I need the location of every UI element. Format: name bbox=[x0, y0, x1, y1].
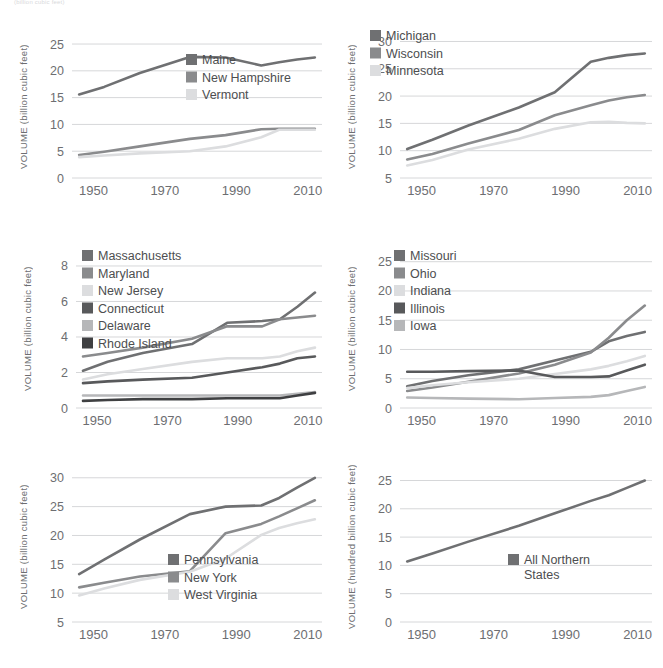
x-tick-label: 1990 bbox=[551, 413, 580, 428]
x-tick-label: 1990 bbox=[551, 183, 580, 198]
legend: MassachusettsMarylandNew JerseyConnectic… bbox=[82, 249, 181, 351]
chart-northern-new-england: 05101520251950197019902010MaineNew Hamps… bbox=[0, 0, 332, 222]
x-tick-label: 1990 bbox=[222, 183, 251, 198]
legend-label: Michigan bbox=[386, 29, 436, 43]
x-tick-label: 2010 bbox=[623, 183, 652, 198]
series-line bbox=[83, 392, 315, 396]
y-tick-label: 30 bbox=[50, 471, 64, 485]
legend-label: Illinois bbox=[410, 302, 445, 316]
legend-label: West Virginia bbox=[184, 588, 257, 602]
y-tick-label: 8 bbox=[61, 259, 68, 273]
legend-swatch bbox=[168, 554, 179, 565]
chart-central-states: 05101520251950197019902010MissouriOhioIn… bbox=[332, 222, 663, 448]
series-line bbox=[83, 393, 315, 401]
y-axis-title: VOLUME (billion cubic feet) bbox=[18, 466, 29, 628]
y-tick-label: 5 bbox=[385, 587, 392, 601]
x-tick-label: 1970 bbox=[150, 183, 179, 198]
x-tick-label: 1950 bbox=[79, 183, 108, 198]
y-tick-label: 10 bbox=[378, 144, 392, 158]
legend-swatch bbox=[82, 250, 93, 261]
y-tick-label: 10 bbox=[50, 118, 64, 132]
panel-lake-states: VOLUME (billion cubic feet)5101520253019… bbox=[332, 0, 663, 222]
x-tick-label: 2010 bbox=[623, 627, 652, 642]
chart-penn-ny-wv: 510152025301950197019902010PennsylvaniaN… bbox=[0, 448, 332, 668]
legend-label: Wisconsin bbox=[386, 47, 443, 61]
x-tick-label: 1950 bbox=[407, 627, 436, 642]
y-tick-label: 25 bbox=[50, 38, 64, 52]
y-tick-label: 20 bbox=[378, 284, 392, 298]
chart-lake-states: 510152025301950197019902010MichiganWisco… bbox=[332, 0, 663, 222]
x-tick-label: 1950 bbox=[79, 627, 108, 642]
x-tick-label: 1970 bbox=[479, 183, 508, 198]
y-tick-label: 25 bbox=[378, 255, 392, 269]
y-tick-label: 4 bbox=[61, 330, 68, 344]
legend-swatch bbox=[82, 320, 93, 331]
legend-swatch bbox=[370, 65, 381, 76]
chart-mid-atlantic-new-england: 024681950197019902010MassachusettsMaryla… bbox=[0, 222, 332, 448]
y-tick-label: 15 bbox=[50, 558, 64, 572]
y-tick-label: 20 bbox=[50, 529, 64, 543]
legend-swatch bbox=[508, 554, 519, 565]
legend-label: States bbox=[524, 568, 559, 582]
y-tick-label: 15 bbox=[378, 117, 392, 131]
legend-swatch bbox=[394, 303, 405, 314]
x-tick-label: 1950 bbox=[407, 183, 436, 198]
x-tick-label: 1990 bbox=[223, 413, 252, 428]
legend-label: Maine bbox=[202, 53, 236, 67]
y-tick-label: 10 bbox=[378, 343, 392, 357]
panel-northern-new-england: VOLUME (billion cubic feet)0510152025195… bbox=[0, 0, 332, 222]
y-tick-label: 15 bbox=[378, 314, 392, 328]
series-line bbox=[79, 130, 315, 157]
x-tick-label: 2010 bbox=[293, 183, 322, 198]
y-axis-title: VOLUME (billion cubic feet) bbox=[346, 30, 357, 184]
legend-label: All Northern bbox=[524, 553, 590, 567]
x-tick-label: 1970 bbox=[150, 627, 179, 642]
legend-swatch bbox=[82, 338, 93, 349]
y-tick-label: 0 bbox=[61, 402, 68, 416]
legend: All NorthernStates bbox=[508, 553, 590, 582]
x-tick-label: 2010 bbox=[293, 627, 322, 642]
legend: PennsylvaniaNew YorkWest Virginia bbox=[168, 553, 258, 602]
legend-swatch bbox=[82, 303, 93, 314]
x-tick-label: 2010 bbox=[623, 413, 652, 428]
legend-label: New Hampshire bbox=[202, 71, 291, 85]
x-tick-label: 1970 bbox=[153, 413, 182, 428]
legend-swatch bbox=[168, 572, 179, 583]
y-tick-label: 2 bbox=[61, 366, 68, 380]
y-axis-title: VOLUME (billion cubic feet) bbox=[18, 30, 29, 184]
legend-label: Maryland bbox=[98, 267, 149, 281]
legend-label: Minnesota bbox=[386, 64, 444, 78]
x-tick-label: 1970 bbox=[479, 627, 508, 642]
legend-swatch bbox=[394, 285, 405, 296]
x-tick-label: 1990 bbox=[551, 627, 580, 642]
legend-label: Ohio bbox=[410, 267, 436, 281]
panel-all-northern-states: VOLUME (hundred billion cubic feet)05101… bbox=[332, 448, 663, 668]
legend-label: Rhode Island bbox=[98, 337, 172, 351]
legend-label: Indiana bbox=[410, 284, 451, 298]
y-tick-label: 10 bbox=[378, 559, 392, 573]
y-axis-title: VOLUME (hundred billion cubic feet) bbox=[346, 466, 357, 628]
panel-mid-atlantic-new-england: VOLUME (billion cubic feet)0246819501970… bbox=[0, 222, 332, 448]
legend-swatch bbox=[186, 89, 197, 100]
y-tick-label: 15 bbox=[50, 91, 64, 105]
y-tick-label: 5 bbox=[385, 372, 392, 386]
legend-swatch bbox=[82, 285, 93, 296]
legend-label: Massachusetts bbox=[98, 249, 181, 263]
x-tick-label: 1990 bbox=[222, 627, 251, 642]
chart-all-northern-states: 05101520251950197019902010All NorthernSt… bbox=[332, 448, 663, 668]
x-tick-label: 2010 bbox=[293, 413, 322, 428]
y-tick-label: 20 bbox=[378, 90, 392, 104]
panel-central-states: VOLUME (billion cubic feet)0510152025195… bbox=[332, 222, 663, 448]
legend-swatch bbox=[82, 268, 93, 279]
y-tick-label: 6 bbox=[61, 295, 68, 309]
legend-swatch bbox=[394, 268, 405, 279]
series-line bbox=[407, 480, 645, 561]
series-line bbox=[407, 387, 645, 399]
legend-label: Connecticut bbox=[98, 302, 165, 316]
legend-swatch bbox=[168, 589, 179, 600]
y-tick-label: 0 bbox=[385, 402, 392, 416]
x-tick-label: 1950 bbox=[407, 413, 436, 428]
x-tick-label: 1950 bbox=[83, 413, 112, 428]
y-tick-label: 5 bbox=[57, 145, 64, 159]
legend-label: Pennsylvania bbox=[184, 553, 258, 567]
